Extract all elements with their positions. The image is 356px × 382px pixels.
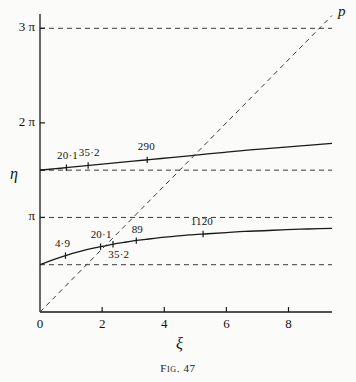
x-tick-label-6: 6 [214,317,238,330]
data-marker-layer [65,157,203,259]
x-tick-label-8: 8 [277,317,301,330]
data-point-label: 20·1 [57,150,78,161]
curve-diagonal-p [40,16,332,312]
data-point-label: 89 [132,224,143,235]
data-point-label: 4·9 [55,238,70,249]
curve-lower-branch [40,228,332,264]
data-point-label: 35·2 [79,147,100,158]
axis-layer [40,14,332,312]
figure-caption: Fig. 47 [0,362,356,374]
y-tick-label-2pi: 2 π [0,115,35,128]
x-tick-label-4: 4 [152,317,176,330]
data-point-label: 35·2 [108,249,129,260]
y-axis-title: η [10,166,18,182]
x-axis-title: ξ [176,336,183,352]
data-point-label: 20·1 [91,229,112,240]
x-tick-label-2: 2 [90,317,114,330]
diagonal-line-label: p [338,4,346,19]
y-tick-label-3pi: 3 π [0,20,35,33]
data-point-label: 1120 [191,216,213,227]
figure-container: 3 π 2 π π 0 2 4 6 8 η ξ p 20·135·22904·9… [0,0,356,382]
data-point-label: 290 [138,141,155,152]
curve-layer [40,16,332,312]
x-tick-label-0: 0 [28,317,52,330]
y-tick-label-pi: π [0,209,35,222]
plot-canvas [0,0,356,382]
